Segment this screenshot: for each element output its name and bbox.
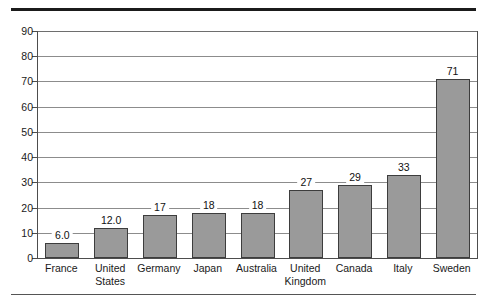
gridline-50	[38, 132, 477, 133]
x-label-canada: Canada	[336, 262, 373, 275]
y-tick-label-50: 50	[7, 127, 33, 137]
x-label-italy: Italy	[393, 262, 412, 275]
x-label-france: France	[45, 262, 78, 275]
y-tick-label-0: 0	[7, 253, 33, 263]
bar-united-states	[94, 228, 128, 258]
x-label-line: Sweden	[433, 262, 471, 275]
bar-united-kingdom	[289, 190, 323, 258]
y-tick-label-60: 60	[7, 102, 33, 112]
x-label-united-states: UnitedStates	[95, 262, 125, 287]
bar-value-label-italy: 33	[395, 162, 413, 173]
x-label-line: United	[285, 262, 326, 275]
y-axis: 9080706050403020100	[5, 31, 33, 258]
bottom-divider-rule	[11, 294, 476, 295]
bar-value-label-japan: 18	[200, 200, 218, 211]
x-label-australia: Australia	[236, 262, 277, 275]
x-label-line: Canada	[336, 262, 373, 275]
bar-value-label-united-kingdom: 27	[297, 177, 315, 188]
y-tick-label-30: 30	[7, 177, 33, 187]
x-label-sweden: Sweden	[433, 262, 471, 275]
x-label-line: Germany	[137, 262, 180, 275]
top-divider-rule	[11, 8, 476, 11]
bar-value-label-france: 6.0	[52, 230, 73, 241]
x-label-japan: Japan	[193, 262, 222, 275]
bar-japan	[192, 213, 226, 258]
gridline-90	[38, 31, 477, 32]
gridline-40	[38, 157, 477, 158]
gridline-60	[38, 107, 477, 108]
y-tick-label-40: 40	[7, 152, 33, 162]
x-label-line: States	[95, 275, 125, 288]
bar-value-label-australia: 18	[249, 200, 267, 211]
plot-area: 6.012.017181827293371	[37, 31, 478, 259]
bar-italy	[387, 175, 421, 258]
bar-value-label-canada: 29	[346, 172, 364, 183]
x-label-line: Kingdom	[285, 275, 326, 288]
bar-france	[45, 243, 79, 258]
bar-sweden	[436, 79, 470, 258]
bar-value-label-germany: 17	[151, 202, 169, 213]
chart-figure: 9080706050403020100 6.012.01718182729337…	[0, 0, 487, 304]
bar-canada	[338, 185, 372, 258]
x-label-line: France	[45, 262, 78, 275]
y-tick-label-70: 70	[7, 76, 33, 86]
bar-value-label-united-states: 12.0	[98, 215, 124, 226]
bar-value-label-sweden: 71	[444, 66, 462, 77]
gridline-80	[38, 56, 477, 57]
x-label-germany: Germany	[137, 262, 180, 275]
x-label-line: Australia	[236, 262, 277, 275]
x-label-line: Japan	[193, 262, 222, 275]
y-tick-label-20: 20	[7, 203, 33, 213]
gridline-70	[38, 81, 477, 82]
y-tick-label-80: 80	[7, 51, 33, 61]
x-label-united-kingdom: UnitedKingdom	[285, 262, 326, 287]
y-tick-label-10: 10	[7, 228, 33, 238]
x-label-line: United	[95, 262, 125, 275]
x-label-line: Italy	[393, 262, 412, 275]
y-tick-label-90: 90	[7, 26, 33, 36]
bar-germany	[143, 215, 177, 258]
bar-australia	[241, 213, 275, 258]
